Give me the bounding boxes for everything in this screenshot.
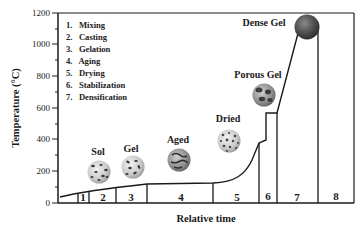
phase-label-sol: Sol xyxy=(91,146,105,157)
y-tick-600: 600 xyxy=(37,103,51,113)
aged-sphere-icon xyxy=(168,149,191,172)
y-tick-1200: 1200 xyxy=(32,8,51,18)
stage-dividers xyxy=(78,22,318,203)
phase-label-dense-gel: Dense Gel xyxy=(242,17,285,28)
phase-label-porous-gel: Porous Gel xyxy=(234,69,282,80)
legend-item-mixing: 1. Mixing xyxy=(66,20,106,30)
phase-label-dried: Dried xyxy=(216,113,241,124)
legend-item-stabilization: 6. Stabilization xyxy=(66,80,125,90)
dried-sphere-icon xyxy=(218,130,241,153)
stage-5: 5 xyxy=(234,191,240,203)
stage-numbers: 1 2 3 4 5 6 7 8 xyxy=(80,190,339,203)
stage-7: 7 xyxy=(294,191,300,203)
sol-gel-process-diagram: 1200 1000 800 600 400 200 0 Temperature … xyxy=(0,0,362,228)
sol-sphere-icon xyxy=(88,161,111,184)
gel-sphere-icon xyxy=(122,156,145,179)
x-axis-label: Relative time xyxy=(176,213,236,224)
y-axis-label: Temperature (°C) xyxy=(10,68,22,148)
stage-6: 6 xyxy=(265,190,271,202)
legend-item-densification: 7. Densification xyxy=(66,92,127,102)
y-tick-labels: 1200 1000 800 600 400 200 0 xyxy=(32,8,51,208)
stage-4: 4 xyxy=(178,191,184,203)
stage-3: 3 xyxy=(128,191,134,203)
legend-item-casting: 2. Casting xyxy=(66,32,108,42)
stage-1: 1 xyxy=(80,191,86,203)
dense-gel-sphere-icon xyxy=(295,15,320,40)
y-ticks xyxy=(52,13,58,203)
legend-item-drying: 5. Drying xyxy=(66,68,105,78)
y-tick-0: 0 xyxy=(46,198,51,208)
y-tick-200: 200 xyxy=(37,166,51,176)
legend-item-aging: 4. Aging xyxy=(66,56,101,66)
legend: 1. Mixing 2. Casting 3. Gelation 4. Agin… xyxy=(66,20,127,102)
y-tick-1000: 1000 xyxy=(32,39,51,49)
y-tick-800: 800 xyxy=(37,71,51,81)
stage-8: 8 xyxy=(333,190,339,202)
phase-label-aged: Aged xyxy=(167,134,190,145)
y-tick-400: 400 xyxy=(37,134,51,144)
phase-label-gel: Gel xyxy=(124,143,139,154)
stage-2: 2 xyxy=(100,191,106,203)
legend-item-gelation: 3. Gelation xyxy=(66,44,111,54)
porous-gel-sphere-icon xyxy=(253,84,276,107)
